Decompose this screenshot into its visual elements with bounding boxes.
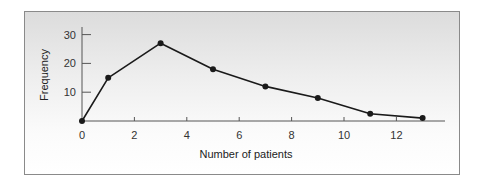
data-point-marker bbox=[79, 118, 85, 124]
y-tick-label: 20 bbox=[64, 57, 76, 69]
x-tick-label: 6 bbox=[236, 129, 242, 141]
x-tick-label: 8 bbox=[289, 129, 295, 141]
x-tick-label: 10 bbox=[338, 129, 350, 141]
data-point-marker bbox=[158, 40, 164, 46]
x-tick-label: 4 bbox=[184, 129, 190, 141]
y-tick-label: 10 bbox=[64, 86, 76, 98]
data-point-marker bbox=[420, 115, 426, 121]
data-point-marker bbox=[210, 66, 216, 72]
series-line bbox=[82, 43, 423, 121]
data-series bbox=[79, 40, 426, 124]
data-point-marker bbox=[262, 83, 268, 89]
x-axis-label: Number of patients bbox=[200, 148, 293, 160]
x-tick-label: 2 bbox=[131, 129, 137, 141]
data-point-marker bbox=[367, 111, 373, 117]
x-tick-label: 0 bbox=[79, 129, 85, 141]
frequency-line-chart: 102030024681012 Frequency Number of pati… bbox=[0, 0, 481, 185]
data-point-marker bbox=[315, 95, 321, 101]
data-point-marker bbox=[105, 75, 111, 81]
axes: 102030024681012 bbox=[64, 27, 445, 141]
x-tick-label: 12 bbox=[390, 129, 402, 141]
y-axis-label: Frequency bbox=[38, 49, 50, 101]
y-tick-label: 30 bbox=[64, 29, 76, 41]
